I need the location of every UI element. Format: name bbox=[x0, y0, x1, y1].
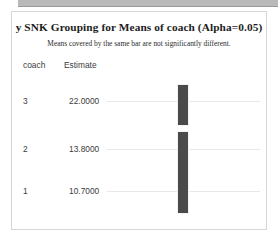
grouping-bar-b bbox=[178, 132, 188, 213]
snk-grouping-panel: y SNK Grouping for Means of coach (Alpha… bbox=[11, 11, 267, 230]
window-top-strip bbox=[18, 0, 278, 7]
grouping-bars-layer bbox=[12, 12, 266, 229]
grouping-bar-a bbox=[178, 85, 188, 125]
